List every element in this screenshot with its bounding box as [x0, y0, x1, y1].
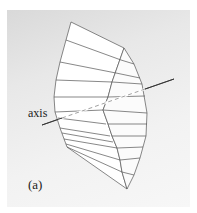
axis-label: axis [28, 106, 47, 121]
axis-visible-right [145, 79, 174, 89]
panel-label: (a) [28, 177, 42, 193]
